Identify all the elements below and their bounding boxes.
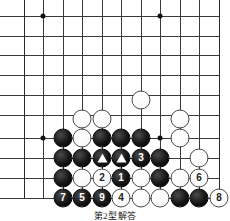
white-stone[interactable] (190, 149, 209, 168)
move-number-label: 2 (99, 173, 105, 183)
black-stone[interactable] (151, 149, 170, 168)
white-stone[interactable] (151, 189, 170, 208)
go-board[interactable]: 321675948 (0, 0, 230, 221)
black-stone[interactable] (151, 169, 170, 188)
black-stone[interactable] (171, 189, 190, 208)
white-stone-move-8[interactable]: 8 (210, 189, 229, 208)
white-stone[interactable] (73, 110, 92, 129)
star-point-lower-left-icon (41, 136, 46, 141)
black-stone[interactable] (132, 129, 151, 148)
black-stone-move-9[interactable]: 9 (93, 189, 112, 208)
white-stone[interactable] (171, 110, 190, 129)
black-stone[interactable] (54, 149, 73, 168)
black-stone-triangle-marked[interactable] (93, 149, 112, 168)
black-stone[interactable] (93, 129, 112, 148)
grid-line-vertical (43, 0, 44, 198)
black-stone-move-7[interactable]: 7 (54, 189, 73, 208)
black-stone-triangle-marked[interactable] (112, 149, 131, 168)
grid-line-vertical (219, 0, 220, 198)
move-number-label: 7 (60, 193, 66, 203)
black-stone[interactable] (54, 129, 73, 148)
grid-line-horizontal (0, 95, 219, 96)
move-number-label: 6 (196, 173, 202, 183)
white-stone[interactable] (132, 189, 151, 208)
move-number-label: 4 (118, 193, 124, 203)
move-number-label: 8 (216, 193, 222, 203)
triangle-marker-icon (97, 154, 107, 163)
black-stone[interactable] (190, 189, 209, 208)
black-stone[interactable] (73, 149, 92, 168)
star-point-lower-right-icon (158, 136, 163, 141)
black-stone[interactable] (112, 129, 131, 148)
white-stone-move-4[interactable]: 4 (112, 189, 131, 208)
white-stone[interactable] (132, 91, 151, 110)
white-stone-move-2[interactable]: 2 (93, 169, 112, 188)
grid-line-vertical (24, 0, 25, 198)
white-stone[interactable] (93, 110, 112, 129)
black-stone-move-3[interactable]: 3 (132, 149, 151, 168)
grid-line-horizontal (0, 55, 219, 56)
move-number-label: 9 (99, 193, 105, 203)
figure-caption: 第2型解答 (0, 209, 230, 221)
black-stone[interactable] (54, 169, 73, 188)
white-stone-move-6[interactable]: 6 (190, 169, 209, 188)
white-stone[interactable] (171, 169, 190, 188)
white-stone[interactable] (132, 169, 151, 188)
triangle-marker-icon (116, 154, 126, 163)
white-stone[interactable] (73, 129, 92, 148)
black-stone-move-5[interactable]: 5 (73, 189, 92, 208)
move-number-label: 1 (118, 173, 124, 183)
star-point-right-icon (158, 14, 163, 19)
grid-line-horizontal (0, 75, 219, 76)
white-stone[interactable] (171, 129, 190, 148)
move-number-label: 3 (138, 153, 144, 163)
grid-line-horizontal (0, 36, 219, 37)
star-point-left-icon (41, 14, 46, 19)
black-stone-move-1[interactable]: 1 (112, 169, 131, 188)
grid-line-horizontal (0, 16, 219, 17)
go-board-figure: 321675948 第2型解答 (0, 0, 230, 221)
white-stone[interactable] (73, 169, 92, 188)
move-number-label: 5 (79, 193, 85, 203)
